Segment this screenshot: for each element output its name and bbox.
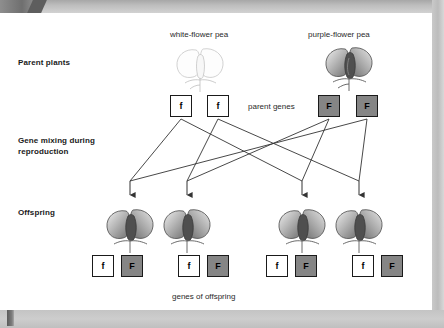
offspring-plant-icon-4 (330, 203, 388, 255)
parent-gene-box-purple-1[interactable]: F (318, 95, 340, 117)
parent-gene-box-white-1[interactable]: f (170, 95, 192, 117)
white-flower-pea-plant-icon (171, 42, 229, 94)
caption-genes-of-offspring: genes of offspring (172, 292, 235, 301)
offspring-gene-box-4-dominant[interactable]: F (381, 255, 403, 277)
caption-purple-flower-pea: purple-flower pea (308, 30, 370, 39)
offspring-gene-box-4-recessive[interactable]: f (352, 255, 374, 277)
frame-bottom-bar (0, 310, 444, 328)
row-label-offspring: Offspring (18, 207, 55, 218)
genetics-punnett-diagram: Parent plants Gene mixing during reprodu… (0, 0, 444, 328)
frame-right-bar (432, 0, 444, 328)
offspring-gene-box-3-recessive[interactable]: f (266, 255, 288, 277)
offspring-gene-box-1-recessive[interactable]: f (92, 255, 114, 277)
row-label-parent-plants: Parent plants (18, 57, 70, 68)
row-label-gene-mixing: Gene mixing during reproduction (18, 135, 138, 157)
offspring-gene-box-2-recessive[interactable]: f (178, 255, 200, 277)
caption-white-flower-pea: white-flower pea (170, 30, 228, 39)
offspring-plant-icon-2 (158, 203, 216, 255)
purple-flower-pea-plant-icon (320, 41, 378, 93)
parent-gene-box-purple-2[interactable]: F (356, 95, 378, 117)
offspring-plant-icon-3 (273, 203, 331, 255)
offspring-gene-box-3-dominant[interactable]: F (295, 255, 317, 277)
offspring-gene-box-2-dominant[interactable]: F (207, 255, 229, 277)
offspring-plant-icon-1 (101, 203, 159, 255)
frame-top-bar (0, 0, 444, 13)
caption-parent-genes: parent genes (248, 102, 295, 111)
frame-bottom-mark (7, 310, 14, 326)
offspring-gene-box-1-dominant[interactable]: F (121, 255, 143, 277)
parent-gene-box-white-2[interactable]: f (207, 95, 229, 117)
